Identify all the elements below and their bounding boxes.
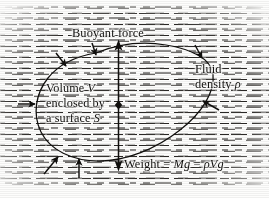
- buoyant-force-text: Buoyant force: [72, 26, 144, 40]
- buoyant-force-label: Buoyant force: [72, 27, 144, 41]
- volume-symbol: V: [87, 81, 95, 95]
- density-word: density: [195, 77, 232, 91]
- surface-words: a surface: [46, 111, 91, 125]
- volume-label-line3: a surface S: [46, 112, 105, 126]
- buoyancy-figure: Buoyant force Volume V enclosed by a sur…: [0, 0, 269, 198]
- weight-mg-symbol: Mg: [174, 157, 191, 171]
- volume-label: Volume V enclosed by a surface S: [46, 82, 105, 127]
- volume-label-line2: enclosed by: [46, 97, 105, 111]
- weight-rhovg-symbol: ρVg: [204, 157, 224, 171]
- weight-equals: =: [190, 157, 203, 171]
- fluid-density-label: Fluid density ρ: [195, 63, 241, 94]
- volume-word: Volume: [46, 81, 84, 95]
- surface-symbol: S: [94, 111, 100, 125]
- fluid-label-line2: density ρ: [195, 78, 241, 92]
- volume-label-line1: Volume V: [46, 82, 105, 96]
- weight-equation-label: Weight = Mg = ρVg: [124, 158, 224, 172]
- density-symbol: ρ: [235, 77, 241, 91]
- weight-word: Weight =: [124, 157, 174, 171]
- fluid-label-line1: Fluid: [195, 63, 241, 77]
